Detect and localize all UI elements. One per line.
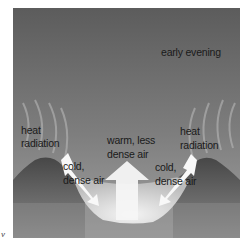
cold-air-left-label-line1: cold, [63, 160, 84, 172]
heat-radiation-right-label-line1: heat [180, 125, 200, 137]
valley-breeze-diagram: early evening heat radiation heat radiat… [13, 8, 240, 238]
diagram-graphic [13, 8, 240, 238]
heat-radiation-left-label-line1: heat [21, 124, 41, 136]
warm-air-label-line1: warm, less [107, 134, 155, 146]
cold-air-right-label-line1: cold, [155, 161, 176, 173]
time-of-day-label: early evening [161, 46, 221, 58]
heat-radiation-left-label-line2: radiation [21, 137, 59, 149]
cold-air-left-label-line2: dense air [63, 174, 104, 186]
cold-air-right-label-line2: dense air [155, 175, 196, 187]
warm-air-label-line2: dense air [107, 148, 148, 160]
corner-mark: v [1, 229, 5, 239]
heat-radiation-right-label-line2: radiation [180, 139, 218, 151]
